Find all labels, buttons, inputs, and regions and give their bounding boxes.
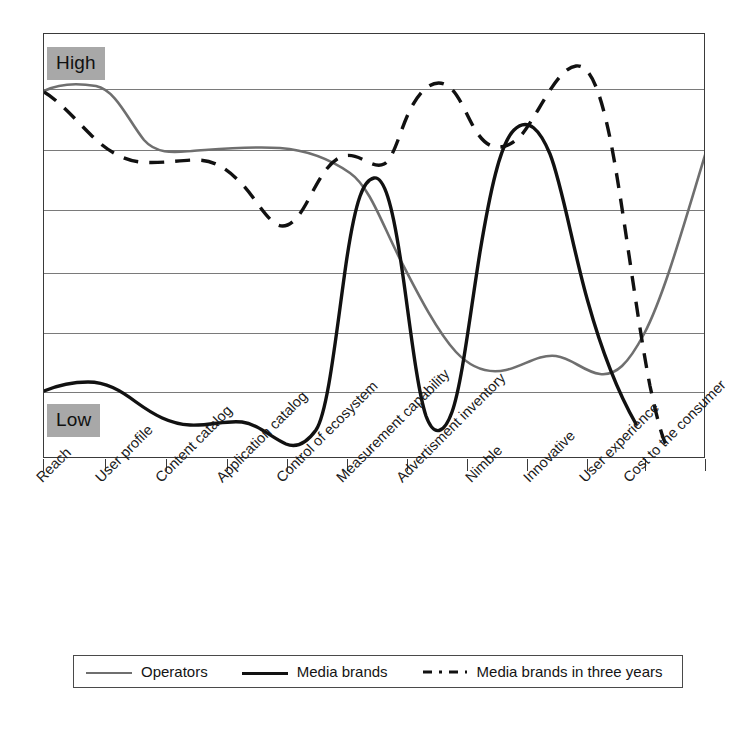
- legend-item-operators[interactable]: Operators: [86, 663, 208, 680]
- legend-item-media-brands-in-three-years[interactable]: Media brands in three years: [422, 663, 663, 680]
- legend-swatch-dashed-black-icon: [422, 665, 468, 679]
- legend-item-media-brands[interactable]: Media brands: [242, 663, 388, 680]
- legend-swatch-solid-thick-black-icon: [242, 665, 288, 679]
- series-line-media-brands: [44, 124, 636, 445]
- legend-label: Operators: [141, 663, 208, 680]
- chart-figure: High Low Reach User profile Content cata…: [0, 0, 748, 729]
- legend-swatch-solid-thin-gray-icon: [86, 665, 132, 679]
- legend: Operators Media brands Media brands in t…: [73, 655, 683, 688]
- series-line-operators: [44, 84, 704, 374]
- legend-label: Media brands: [297, 663, 388, 680]
- x-tick: [705, 459, 706, 471]
- legend-label: Media brands in three years: [477, 663, 663, 680]
- y-axis-high-label: High: [47, 47, 105, 80]
- y-axis-low-label: Low: [47, 404, 100, 437]
